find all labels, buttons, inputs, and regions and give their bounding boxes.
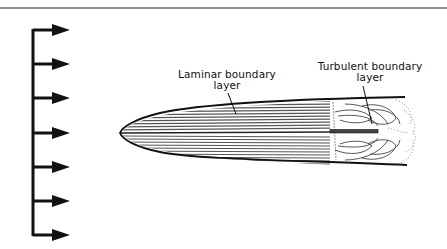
laminar-boundary-layer-region	[110, 101, 340, 164]
turbulent-label: Turbulent boundary layer	[310, 61, 430, 83]
free-stream-velocity-profile	[33, 24, 70, 241]
arrow-icon	[33, 24, 70, 36]
laminar-label-line2: layer	[172, 80, 282, 91]
arrow-icon	[33, 127, 70, 139]
arrow-icon	[33, 58, 70, 70]
flat-plate	[330, 130, 378, 134]
arrow-icon	[33, 229, 70, 241]
arrow-icon	[33, 161, 70, 173]
turbulent-label-line2: layer	[310, 72, 430, 83]
arrow-icon	[33, 195, 70, 207]
laminar-label: Laminar boundary layer	[172, 69, 282, 91]
arrow-icon	[33, 92, 70, 104]
boundary-layer-diagram	[0, 0, 447, 249]
